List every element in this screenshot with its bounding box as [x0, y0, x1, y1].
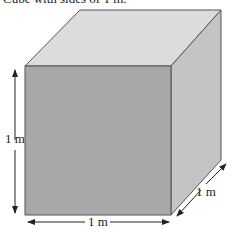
depth-label: 1 m	[196, 184, 216, 199]
width-dimension: 1 m	[28, 214, 169, 229]
height-label: 1 m	[5, 131, 25, 146]
height-dimension: 1 m	[5, 70, 25, 213]
width-label: 1 m	[88, 214, 108, 229]
cube-front-face	[25, 66, 171, 215]
cube-diagram: 1 m 1 m 1 m	[0, 0, 233, 237]
cube	[25, 10, 221, 215]
